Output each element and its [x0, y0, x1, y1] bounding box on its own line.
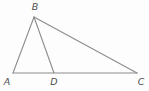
edge-BC [34, 17, 137, 73]
geometry-figure: ABDC [0, 0, 149, 91]
vertex-label-C: C [138, 76, 145, 87]
cevian-BD [34, 17, 54, 73]
vertex-label-A: A [3, 76, 11, 87]
vertex-label-D: D [50, 76, 57, 87]
triangle-diagram: ABDC [0, 0, 149, 91]
vertex-label-B: B [32, 1, 39, 12]
edge-AB [13, 17, 34, 73]
